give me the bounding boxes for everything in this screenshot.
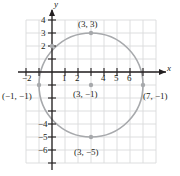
y-axis-label: y	[54, 0, 58, 9]
coordinate-plane-figure: x y −2 1 2 4 5 6 4 3 2 −4 −5 −6 (3, 3) (…	[0, 0, 180, 176]
point-bottom	[89, 135, 93, 139]
y-tick-label-3: 3	[41, 29, 46, 38]
x-axis-label: x	[167, 64, 171, 73]
x-tick-label-5: 5	[114, 74, 119, 83]
y-tick-label-neg4: −4	[38, 120, 48, 129]
x-axis-arrow	[159, 69, 166, 75]
y-tick-label-neg6: −6	[38, 146, 48, 155]
point-label-center: (3, −1)	[73, 90, 98, 99]
y-tick-label-4: 4	[41, 16, 46, 25]
point-label-top: (3, 3)	[78, 20, 98, 29]
y-axis-arrow	[49, 9, 55, 16]
point-left	[37, 83, 41, 87]
point-label-bottom: (3, −5)	[74, 148, 99, 157]
x-tick-label-neg2: −2	[22, 74, 32, 83]
x-tick-label-6: 6	[127, 74, 132, 83]
point-label-left: (−1, −1)	[2, 92, 32, 101]
x-tick-label-2: 2	[75, 74, 80, 83]
y-tick-label-2: 2	[41, 42, 46, 51]
point-right	[141, 83, 145, 87]
y-tick-label-neg5: −5	[38, 133, 48, 142]
point-y-intercept	[50, 44, 54, 48]
point-label-right: (7, −1)	[143, 92, 168, 101]
point-center	[89, 83, 93, 87]
x-tick-label-1: 1	[62, 74, 67, 83]
point-top	[89, 31, 93, 35]
x-tick-label-4: 4	[101, 74, 106, 83]
